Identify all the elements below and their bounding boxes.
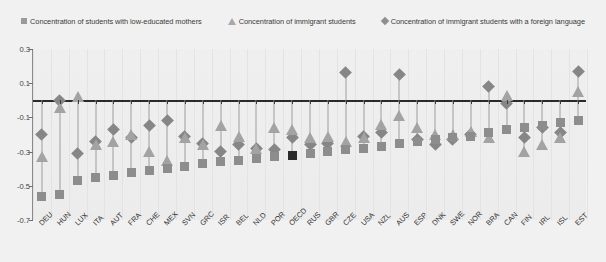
square-marker-icon[interactable] bbox=[270, 152, 279, 161]
square-marker-icon[interactable] bbox=[484, 128, 493, 137]
square-marker-icon[interactable] bbox=[502, 125, 511, 134]
square-marker-icon[interactable] bbox=[252, 154, 261, 163]
connector-stem bbox=[202, 100, 203, 163]
square-marker-icon[interactable] bbox=[234, 156, 243, 165]
gridline-vertical bbox=[104, 49, 105, 220]
square-marker-icon[interactable] bbox=[145, 166, 154, 175]
x-axis-tick bbox=[417, 100, 418, 104]
gridline-vertical bbox=[33, 49, 34, 220]
x-axis-tick bbox=[113, 100, 114, 104]
triangle-marker-icon[interactable] bbox=[358, 132, 370, 143]
square-marker-icon[interactable] bbox=[288, 151, 297, 160]
square-marker-icon[interactable] bbox=[73, 176, 82, 185]
triangle-marker-icon[interactable] bbox=[107, 136, 119, 147]
square-marker-icon[interactable] bbox=[323, 147, 332, 156]
gridline-vertical bbox=[247, 49, 248, 220]
triangle-marker-icon[interactable] bbox=[536, 139, 548, 150]
connector-stem bbox=[149, 100, 150, 170]
gridline-vertical bbox=[390, 49, 391, 220]
gridline-vertical bbox=[516, 49, 517, 220]
square-marker-icon[interactable] bbox=[198, 159, 207, 168]
legend-label: Concentration of students with low-educa… bbox=[30, 17, 202, 26]
triangle-marker-icon[interactable] bbox=[179, 132, 191, 143]
x-axis-tick bbox=[578, 100, 579, 104]
gridline-vertical bbox=[319, 49, 320, 220]
triangle-marker-icon[interactable] bbox=[90, 139, 102, 150]
legend-label: Concentration of immigrant students bbox=[239, 17, 356, 26]
triangle-marker-icon[interactable] bbox=[36, 151, 48, 162]
x-axis-tick bbox=[274, 100, 275, 104]
chart-container: Concentration of students with low-educa… bbox=[0, 0, 606, 262]
x-axis-tick bbox=[471, 100, 472, 104]
square-marker-icon[interactable] bbox=[341, 145, 350, 154]
triangle-marker-icon[interactable] bbox=[143, 146, 155, 157]
square-marker-icon[interactable] bbox=[520, 123, 529, 132]
square-marker-icon bbox=[21, 18, 27, 24]
gridline-vertical bbox=[408, 49, 409, 220]
x-axis-tick bbox=[167, 100, 168, 104]
square-marker-icon[interactable] bbox=[359, 144, 368, 153]
gridline-vertical bbox=[444, 49, 445, 220]
square-marker-icon[interactable] bbox=[180, 162, 189, 171]
square-marker-icon[interactable] bbox=[538, 121, 547, 130]
square-marker-icon[interactable] bbox=[377, 142, 386, 151]
triangle-marker-icon[interactable] bbox=[250, 143, 262, 154]
triangle-marker-icon[interactable] bbox=[375, 119, 387, 130]
square-marker-icon[interactable] bbox=[413, 137, 422, 146]
x-axis-tick bbox=[239, 100, 240, 104]
square-marker-icon[interactable] bbox=[163, 164, 172, 173]
gridline-vertical bbox=[283, 49, 284, 220]
triangle-marker-icon[interactable] bbox=[197, 139, 209, 150]
triangle-marker-icon[interactable] bbox=[501, 90, 513, 101]
triangle-marker-icon bbox=[228, 18, 236, 25]
x-axis-labels: DEUHUNLUXITAAUTFRACHEMEXSVNGRCISRBELNLDP… bbox=[32, 221, 586, 262]
triangle-marker-icon[interactable] bbox=[572, 86, 584, 97]
square-marker-icon[interactable] bbox=[574, 116, 583, 125]
legend-item-immigrant-students: Concentration of immigrant students bbox=[228, 17, 356, 26]
triangle-marker-icon[interactable] bbox=[393, 110, 405, 121]
square-marker-icon[interactable] bbox=[55, 190, 64, 199]
gridline-vertical bbox=[194, 49, 195, 220]
legend-label: Concentration of immigrant students with… bbox=[391, 17, 585, 26]
gridline-vertical bbox=[301, 49, 302, 220]
square-marker-icon[interactable] bbox=[431, 135, 440, 144]
triangle-marker-icon[interactable] bbox=[268, 122, 280, 133]
triangle-marker-icon[interactable] bbox=[215, 120, 227, 131]
x-axis-tick bbox=[203, 100, 204, 104]
gridline-vertical bbox=[176, 49, 177, 220]
gridline-vertical bbox=[265, 49, 266, 220]
square-marker-icon[interactable] bbox=[216, 157, 225, 166]
connector-stem bbox=[41, 100, 42, 196]
triangle-marker-icon[interactable] bbox=[286, 124, 298, 135]
x-axis-tick bbox=[542, 100, 543, 104]
square-marker-icon[interactable] bbox=[556, 118, 565, 127]
x-axis-tick bbox=[381, 100, 382, 104]
square-marker-icon[interactable] bbox=[395, 139, 404, 148]
square-marker-icon[interactable] bbox=[127, 168, 136, 177]
square-marker-icon[interactable] bbox=[306, 149, 315, 158]
gridline-vertical bbox=[69, 49, 70, 220]
square-marker-icon[interactable] bbox=[91, 173, 100, 182]
x-axis-tick bbox=[149, 100, 150, 104]
square-marker-icon[interactable] bbox=[37, 192, 46, 201]
x-axis-tick bbox=[489, 100, 490, 104]
x-axis-tick bbox=[185, 100, 186, 104]
square-marker-icon[interactable] bbox=[109, 171, 118, 180]
x-axis-tick bbox=[256, 100, 257, 104]
triangle-marker-icon[interactable] bbox=[304, 132, 316, 143]
triangle-marker-icon[interactable] bbox=[554, 132, 566, 143]
x-axis-tick bbox=[524, 100, 525, 104]
gridline-vertical bbox=[480, 49, 481, 220]
x-axis-tick bbox=[131, 100, 132, 104]
triangle-marker-icon[interactable] bbox=[322, 131, 334, 142]
square-marker-icon[interactable] bbox=[448, 133, 457, 142]
gridline-vertical bbox=[533, 49, 534, 220]
x-axis-tick bbox=[310, 100, 311, 104]
triangle-marker-icon[interactable] bbox=[518, 146, 530, 157]
x-axis-tick bbox=[560, 100, 561, 104]
connector-stem bbox=[59, 100, 60, 194]
triangle-marker-icon[interactable] bbox=[125, 129, 137, 140]
triangle-marker-icon[interactable] bbox=[233, 131, 245, 142]
square-marker-icon[interactable] bbox=[466, 132, 475, 141]
triangle-marker-icon[interactable] bbox=[411, 122, 423, 133]
